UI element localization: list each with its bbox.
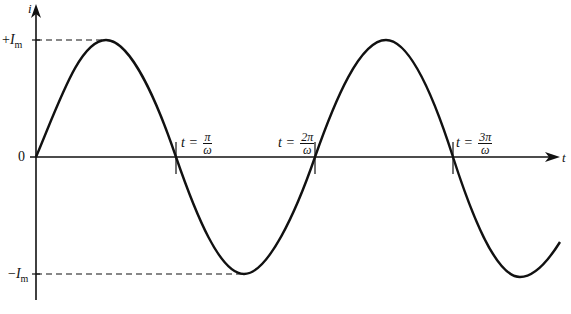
current-sine-curve: [36, 40, 560, 277]
time-marker-2pi: t = 2πω: [278, 131, 314, 156]
positive-peak-label: +Im: [2, 33, 22, 50]
y-axis-label: i: [28, 2, 32, 15]
time-marker-3pi: t = 3πω: [456, 131, 492, 156]
negative-peak-label: −Im: [8, 267, 28, 284]
time-marker-pi: t = πω: [181, 131, 212, 156]
x-axis-label: t: [562, 151, 566, 164]
origin-label: 0: [18, 150, 25, 164]
waveform-canvas: [0, 0, 571, 314]
